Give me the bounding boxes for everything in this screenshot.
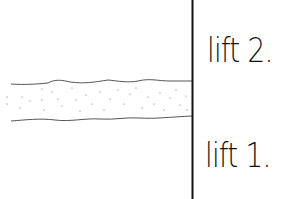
label-lift-2: lift 2. <box>207 33 272 67</box>
label-lift-1: lift 1. <box>205 138 270 172</box>
band-dots <box>6 87 187 111</box>
dotted-band <box>6 80 192 121</box>
band-top-edge <box>11 80 192 85</box>
band-bottom-edge <box>11 116 192 121</box>
